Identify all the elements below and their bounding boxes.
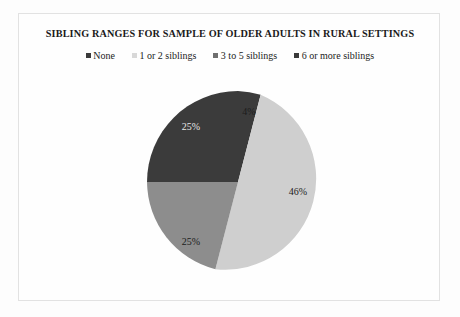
legend-label-none: None (93, 51, 115, 61)
legend-swatch-none (86, 53, 91, 58)
pie-chart: 4% 46% 25% 25% (146, 90, 330, 274)
legend-label-six-or-more: 6 or more siblings (302, 51, 375, 61)
pie-svg: 4% 46% 25% 25% (146, 90, 330, 274)
pie-label-three-to-five: 25% (182, 236, 200, 247)
pie-slice-six-or-more[interactable] (147, 91, 238, 182)
legend-swatch-six-or-more (294, 53, 299, 58)
legend-swatch-one-or-two (132, 53, 137, 58)
chart-title: SIBLING RANGES FOR SAMPLE OF OLDER ADULT… (19, 28, 441, 39)
legend-swatch-three-to-five (213, 53, 218, 58)
pie-label-six-or-more: 25% (182, 121, 200, 132)
legend-label-three-to-five: 3 to 5 siblings (221, 51, 277, 61)
legend-label-one-or-two: 1 or 2 siblings (139, 51, 196, 61)
pie-label-one-or-two: 46% (289, 186, 307, 197)
legend-item-six-or-more[interactable]: 6 or more siblings (294, 51, 374, 61)
pie-label-none: 4% (242, 106, 255, 117)
legend-item-three-to-five[interactable]: 3 to 5 siblings (213, 51, 277, 61)
legend-item-one-or-two[interactable]: 1 or 2 siblings (132, 51, 196, 61)
chart-legend: None 1 or 2 siblings 3 to 5 siblings 6 o… (19, 51, 441, 61)
legend-item-none[interactable]: None (86, 51, 115, 61)
scanned-page: SIBLING RANGES FOR SAMPLE OF OLDER ADULT… (0, 0, 460, 317)
chart-frame: SIBLING RANGES FOR SAMPLE OF OLDER ADULT… (18, 13, 440, 301)
